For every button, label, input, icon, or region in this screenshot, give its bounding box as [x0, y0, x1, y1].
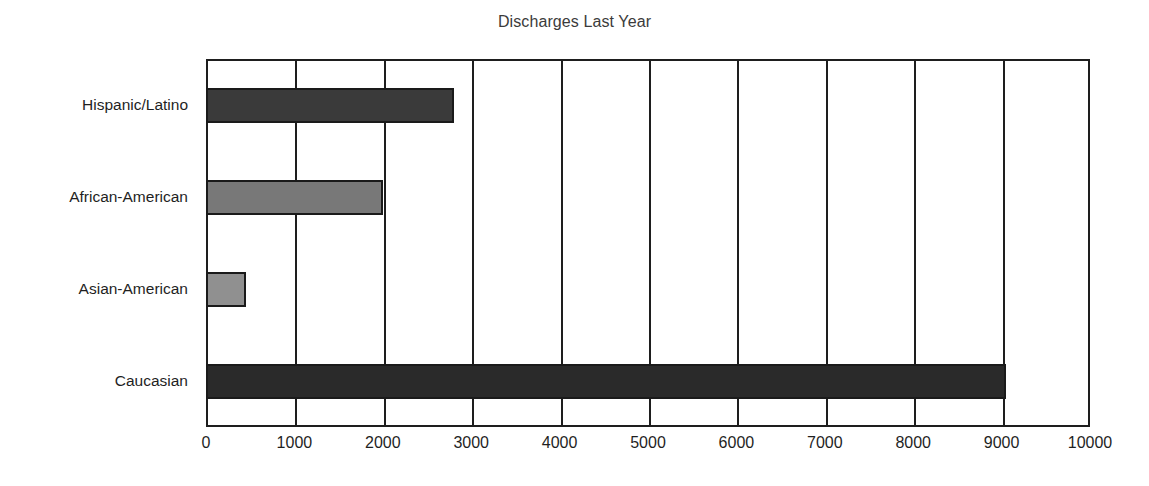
x-tick-label-3000: 3000 [453, 434, 489, 452]
x-tick-label-1000: 1000 [277, 434, 313, 452]
x-tick-label-6000: 6000 [719, 434, 755, 452]
x-tick-label-5000: 5000 [630, 434, 666, 452]
x-tick-label-10000: 10000 [1068, 434, 1113, 452]
x-tick-label-0: 0 [202, 434, 211, 452]
x-tick-label-7000: 7000 [807, 434, 843, 452]
x-tick-label-4000: 4000 [542, 434, 578, 452]
x-tick-label-8000: 8000 [895, 434, 931, 452]
x-tick-label-9000: 9000 [984, 434, 1020, 452]
bar-chart-figure: Discharges Last Year Hispanic/LatinoAfri… [0, 0, 1149, 486]
x-tick-label-2000: 2000 [365, 434, 401, 452]
x-axis-tick-labels: 0100020003000400050006000700080009000100… [0, 0, 1149, 486]
